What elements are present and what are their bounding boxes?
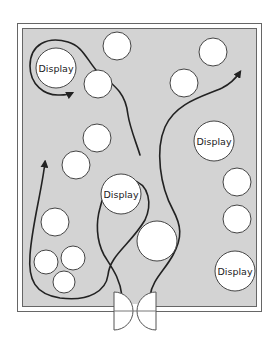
round-fixture (170, 69, 198, 97)
round-fixture (41, 208, 69, 236)
round-fixture (83, 124, 111, 152)
round-fixture (223, 168, 251, 196)
round-fixture (61, 246, 85, 270)
display-fixture: Display (36, 48, 76, 88)
fixture-circle (61, 246, 85, 270)
round-fixture (223, 205, 251, 233)
round-fixture (199, 38, 227, 66)
display-label: Display (38, 63, 73, 74)
display-fixture: Display (194, 121, 234, 161)
fixture-circle (137, 221, 177, 261)
round-fixture (34, 250, 58, 274)
round-fixture (84, 70, 112, 98)
display-fixture: Display (101, 174, 141, 214)
fixture-circle (199, 38, 227, 66)
fixture-circle (34, 250, 58, 274)
fixture-circle (83, 124, 111, 152)
round-fixture (53, 271, 75, 293)
fixture-circle (84, 70, 112, 98)
fixture-circle (103, 32, 131, 60)
round-fixture (103, 32, 131, 60)
fixture-circle (170, 69, 198, 97)
fixture-circle (41, 208, 69, 236)
fixture-circle (223, 168, 251, 196)
display-fixture: Display (215, 251, 255, 291)
fixture-circle (62, 151, 90, 179)
display-label: Display (217, 266, 252, 277)
round-fixture (137, 221, 177, 261)
round-fixture (62, 151, 90, 179)
display-label: Display (103, 189, 138, 200)
fixture-circle (53, 271, 75, 293)
fixture-circle (223, 205, 251, 233)
display-label: Display (196, 136, 231, 147)
store-floor-plan: DisplayDisplayDisplayDisplay (0, 0, 279, 349)
